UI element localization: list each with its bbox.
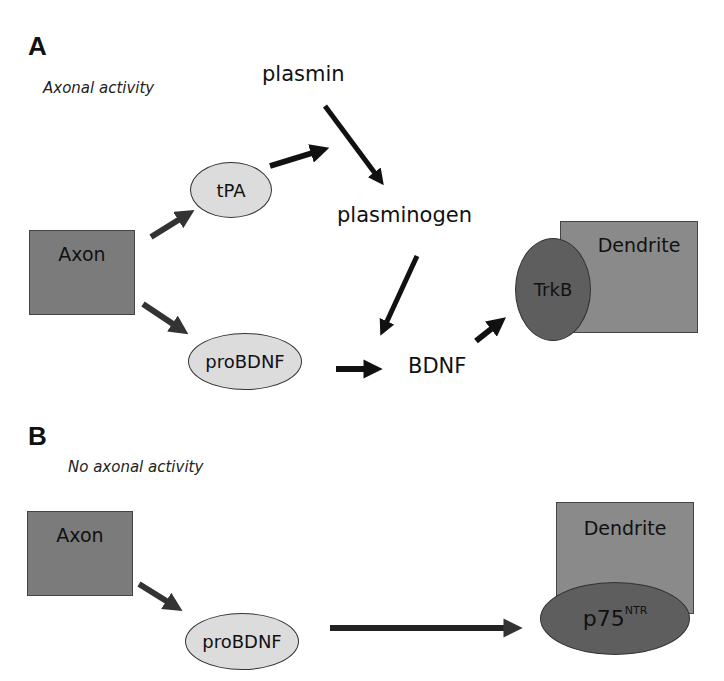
axon-box-b: Axon: [27, 511, 133, 596]
axon-label-a: Axon: [30, 243, 134, 265]
panel-b-subtitle: No axonal activity: [68, 458, 203, 476]
arrow-axon-to-tpa: [151, 214, 188, 237]
axon-label-b: Axon: [28, 524, 132, 546]
probdnf-label-b: proBDNF: [202, 631, 281, 652]
probdnf-node-a: proBDNF: [188, 333, 302, 390]
panel-a-subtitle: Axonal activity: [43, 79, 154, 97]
arrow-plasminogen-to-bdnf: [383, 256, 417, 330]
arrow-axon-to-probdnf: [143, 304, 182, 330]
trkb-node: TrkB: [515, 238, 591, 341]
p75-base-text: p75: [583, 606, 625, 631]
p75ntr-node: p75NTR: [540, 582, 690, 655]
axon-box-a: Axon: [29, 230, 135, 315]
probdnf-node-b: proBDNF: [185, 613, 299, 670]
arrow-bdnf-to-trkb: [476, 322, 500, 341]
arrow-plasmin-to-plasminogen: [325, 106, 380, 180]
tpa-node: tPA: [190, 162, 272, 218]
panel-b-label: B: [28, 421, 47, 452]
arrow-axon-to-probdnf-b: [139, 584, 176, 607]
plasminogen-label: plasminogen: [337, 203, 472, 227]
plasmin-label: plasmin: [262, 62, 345, 86]
dendrite-label-b: Dendrite: [557, 517, 693, 539]
arrow-tpa-to-plasminogen: [270, 150, 322, 166]
p75-superscript: NTR: [625, 604, 648, 617]
trkb-label: TrkB: [534, 279, 573, 300]
bdnf-label: BDNF: [408, 354, 466, 378]
probdnf-label-a: proBDNF: [205, 351, 284, 372]
panel-a-label: A: [28, 31, 47, 62]
p75ntr-label: p75NTR: [583, 606, 648, 631]
tpa-label: tPA: [216, 180, 245, 201]
dendrite-label-a: Dendrite: [581, 234, 697, 256]
